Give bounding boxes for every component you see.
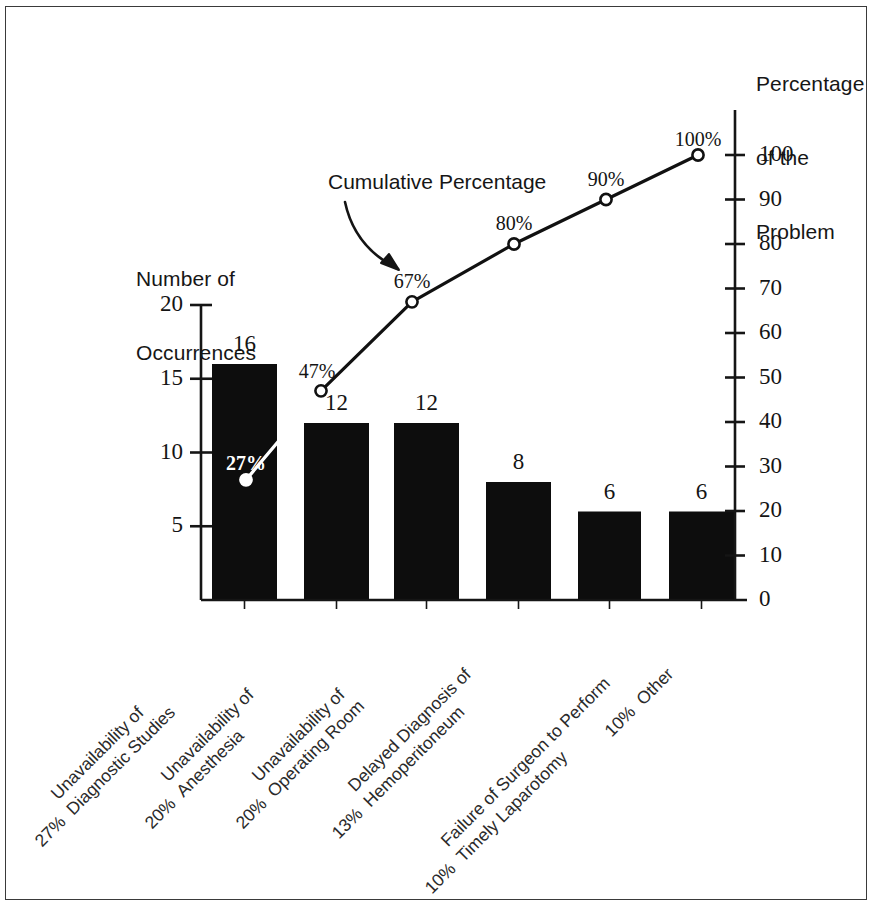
right-tick-label-30: 30 — [759, 452, 819, 479]
bar-value-label-3: 12 — [387, 389, 467, 416]
left-tick-label-20: 20 — [133, 290, 183, 317]
bar-value-label-5: 6 — [570, 478, 650, 505]
cumulative-percentage-annotation: Cumulative Percentage — [328, 170, 546, 195]
bars-group — [212, 364, 734, 600]
right-tick-label-40: 40 — [759, 407, 819, 434]
cumulative-marker-1 — [240, 474, 251, 485]
cumulative-marker-3 — [406, 296, 417, 307]
cumulative-label-6: 100% — [656, 128, 740, 152]
bar-3 — [394, 423, 459, 600]
left-tick-label-10: 10 — [133, 438, 183, 465]
annotation-arrow-group — [345, 202, 399, 270]
right-tick-label-70: 70 — [759, 274, 819, 301]
right-tick-label-20: 20 — [759, 496, 819, 523]
bar-value-label-4: 8 — [479, 448, 559, 475]
cumulative-label-4: 80% — [472, 212, 556, 236]
cumulative-label-5: 90% — [564, 168, 648, 192]
bar-4 — [486, 482, 551, 600]
annotation-arrow-head — [381, 254, 399, 270]
pareto-chart-figure: Number of Occurrences Percentage of the … — [0, 0, 893, 920]
cumulative-label-2: 47% — [275, 360, 359, 384]
bar-5 — [578, 512, 641, 601]
right-tick-label-0: 0 — [759, 585, 819, 612]
right-tick-label-10: 10 — [759, 541, 819, 568]
bar-value-label-2: 12 — [297, 389, 377, 416]
left-tick-label-5: 5 — [133, 511, 183, 538]
right-tick-label-80: 80 — [759, 229, 819, 256]
cumulative-marker-5 — [600, 194, 611, 205]
bar-6 — [669, 512, 734, 601]
right-tick-label-90: 90 — [759, 185, 819, 212]
cumulative-label-1: 27% — [204, 452, 288, 476]
left-tick-label-15: 15 — [133, 364, 183, 391]
bar-value-label-1: 16 — [205, 330, 285, 357]
bar-2 — [304, 423, 369, 600]
cumulative-marker-4 — [508, 238, 519, 249]
right-tick-label-100: 100 — [759, 140, 819, 167]
right-tick-label-50: 50 — [759, 363, 819, 390]
bar-value-label-6: 6 — [662, 478, 742, 505]
cumulative-label-3: 67% — [370, 270, 454, 294]
right-tick-label-60: 60 — [759, 318, 819, 345]
